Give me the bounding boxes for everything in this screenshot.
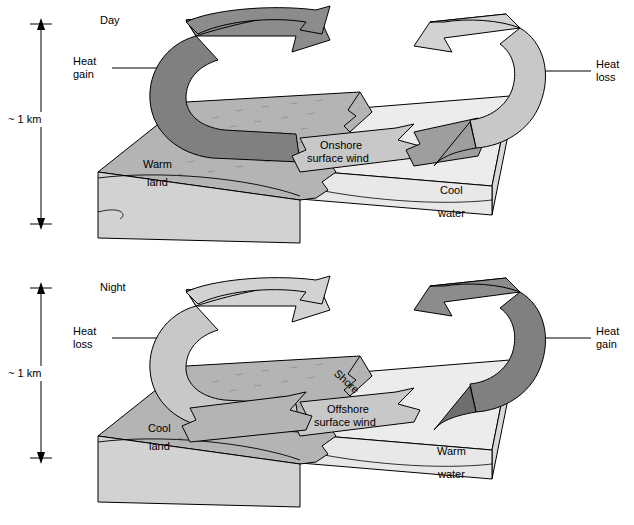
- panel-night: ~ 1 km Heat loss Heat gain Night: [0, 262, 634, 524]
- night-water-label-line2: water: [438, 468, 465, 481]
- panel-day: ~ 1 km Heat gain Heat loss Day: [0, 0, 634, 262]
- day-land-label-line1: Warm: [143, 158, 172, 171]
- night-water-label-line1: Warm: [437, 445, 466, 458]
- day-block-diagram: [0, 0, 634, 262]
- night-land-label-line2: land: [149, 440, 170, 453]
- night-land-label-line1: Cool: [148, 422, 171, 435]
- day-water-label-line2: water: [438, 207, 465, 220]
- day-land-label-line2: land: [147, 176, 168, 189]
- night-offshore-wind-label-line2: surface wind: [314, 416, 376, 429]
- day-onshore-wind-label-line2: surface wind: [307, 152, 369, 165]
- night-block-diagram: [0, 262, 634, 525]
- day-onshore-wind-label-line1: Onshore: [320, 139, 362, 152]
- night-offshore-wind-label-line1: Offshore: [327, 403, 369, 416]
- day-water-label-line1: Cool: [440, 184, 463, 197]
